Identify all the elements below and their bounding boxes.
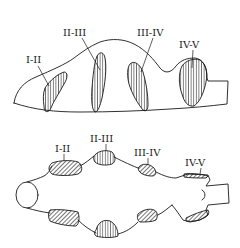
top-label-iv-v: IV-V [185,157,206,168]
top-label-ii-iii: II-III [90,133,113,144]
top-label-iii-iv: III-IV [134,147,161,158]
top-region-ii-iii [94,151,115,165]
leader-side-i-ii [38,66,49,86]
top-view-left-end [16,182,38,208]
top-region-ii-iii-lower [95,220,119,237]
top-region-i-ii-lower [49,210,80,226]
side-region-i-ii [43,72,67,112]
leader-top-iv-v [200,168,201,174]
side-region-iv-v [179,59,206,106]
top-region-i-ii [49,161,82,176]
leader-side-iii-iv [141,38,153,72]
side-region-iii-iv [128,62,148,110]
top-region-iii-iv [138,164,155,176]
side-view: I-II II-III III-IV IV-V [14,27,228,112]
side-region-ii-iii [92,53,106,112]
anatomical-diagram: I-II II-III III-IV IV-V I-II II-III III- [0,0,240,248]
side-label-iv-v: IV-V [179,39,200,50]
side-label-iii-iv: III-IV [137,27,164,38]
top-region-iii-iv-lower [137,209,157,222]
top-region-iv-v-upper [184,174,208,178]
top-region-iv-v-lower [186,210,209,221]
top-view: I-II II-III III-IV IV-V [16,133,229,238]
side-label-ii-iii: II-III [63,27,86,38]
top-label-i-ii: I-II [55,143,70,154]
side-label-i-ii: I-II [26,54,41,65]
top-view-notch [202,190,205,200]
